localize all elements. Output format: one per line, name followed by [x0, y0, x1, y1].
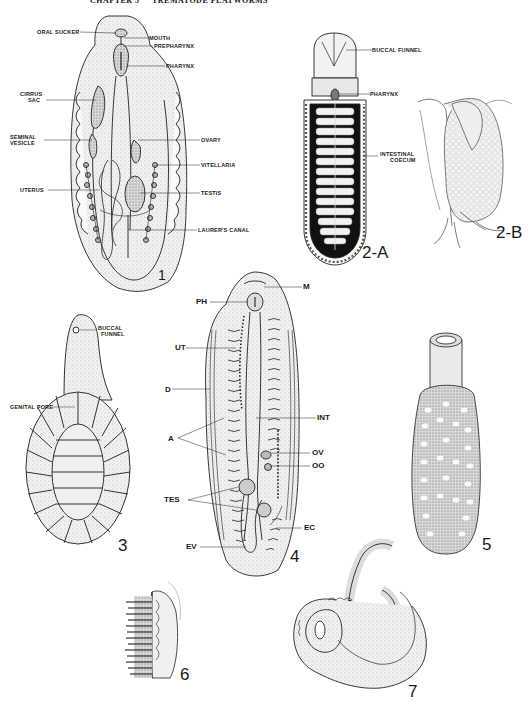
- figure-1-fluke: [44, 16, 200, 291]
- label-testis: TESTIS: [201, 190, 221, 196]
- label-ec: EC: [304, 523, 315, 532]
- label-oral-sucker: ORAL SUCKER: [37, 29, 79, 35]
- label-pharynx: PHARYNX: [166, 63, 194, 69]
- label-genital-pore: GENITAL PORE: [10, 404, 53, 410]
- label-ut: UT: [175, 343, 186, 352]
- label-vitellaria: VITELLARIA: [201, 162, 235, 168]
- figure-7-coiled-fluke: [294, 544, 427, 689]
- label-m: M: [303, 282, 310, 291]
- label-oo: OO: [312, 461, 324, 470]
- illustration-plate: [0, 0, 529, 720]
- label-prepharynx: PREPHARYNX: [154, 43, 194, 49]
- label-a: A: [168, 434, 174, 443]
- label-ev: EV: [186, 542, 197, 551]
- label-laurers-canal: LAURER'S CANAL: [198, 227, 249, 233]
- figure-2a-segmented-fluke: [304, 33, 378, 265]
- figure-number-4: 4: [290, 548, 299, 565]
- label-d: D: [165, 385, 171, 394]
- figure-number-3: 3: [118, 537, 127, 554]
- label-ph: PH: [196, 297, 207, 306]
- label-uterus: UTERUS: [20, 187, 44, 193]
- label-pharynx-2a: PHARYNX: [370, 91, 398, 97]
- figure-number-6: 6: [180, 666, 189, 683]
- figure-5-sucker-fluke: [412, 333, 480, 554]
- figure-6-comb-detail: [125, 582, 180, 678]
- figure-number-2a: 2-A: [362, 244, 388, 261]
- figure-4-elongate-fluke: [172, 272, 316, 576]
- label-ovary: OVARY: [201, 137, 221, 143]
- label-cirrus-sac-line2: SAC: [28, 97, 40, 103]
- label-seminal-vesicle-line2: VESICLE: [10, 140, 35, 146]
- label-buccal-funnel-3-line2: FUNNEL: [101, 331, 125, 337]
- figure-3-buccal-fluke: [26, 315, 130, 544]
- figure-number-2b: 2-B: [496, 224, 522, 241]
- label-intestinal-coecum-line2: COECUM: [390, 157, 416, 163]
- figure-number-1: 1: [158, 267, 166, 284]
- label-ov: OV: [312, 448, 324, 457]
- figure-number-5: 5: [482, 536, 491, 553]
- label-int: INT: [317, 413, 330, 422]
- label-buccal-funnel: BUCCAL FUNNEL: [372, 47, 422, 53]
- figure-number-7: 7: [408, 683, 417, 700]
- label-mouth: MOUTH: [149, 35, 170, 41]
- label-tes: TES: [164, 495, 180, 504]
